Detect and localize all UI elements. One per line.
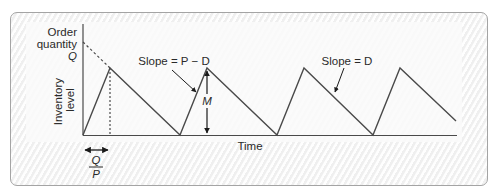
build-time-denominator: P xyxy=(92,168,100,180)
inventory-diagram: M Slope = P − D Slope = D Order quantity… xyxy=(0,0,492,193)
order-quantity-label-line2: quantity xyxy=(37,38,78,50)
max-inventory-label: M xyxy=(202,95,212,107)
y-axis-label-line2: level xyxy=(64,88,76,112)
slope-build-pointer-arrow xyxy=(172,70,196,92)
x-axis-label: Time xyxy=(237,140,262,152)
order-quantity-label-line1: Order xyxy=(48,26,78,38)
order-quantity-symbol: Q xyxy=(68,50,77,62)
slope-deplete-label: Slope = D xyxy=(322,55,373,67)
build-time-numerator: Q xyxy=(92,154,101,166)
y-axis-label: Inventory level xyxy=(52,75,76,126)
slope-deplete-pointer-arrow xyxy=(335,68,344,92)
slope-build-label: Slope = P − D xyxy=(138,55,209,67)
y-axis-label-line1: Inventory xyxy=(52,78,64,126)
order-quantity-dashed-line xyxy=(83,42,110,68)
inventory-sawtooth-line xyxy=(83,68,456,135)
